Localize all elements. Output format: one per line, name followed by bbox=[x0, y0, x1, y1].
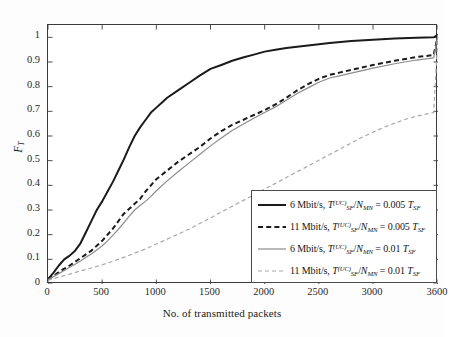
y-tick-label: 0 bbox=[0, 277, 40, 287]
x-axis-title: No. of transmitted packets bbox=[0, 307, 444, 319]
legend-eq: = 0.005 bbox=[375, 199, 405, 210]
y-tick-label: 0.9 bbox=[0, 55, 40, 65]
legend-line-sample bbox=[257, 221, 287, 233]
legend-label: 11 Mbit/s, T(UC)SF/NMN = 0.01 TSF bbox=[290, 265, 420, 277]
y-axis-title: FT bbox=[12, 127, 26, 167]
x-tick-label: 0 bbox=[25, 287, 69, 297]
y-tick-label: 1 bbox=[0, 30, 40, 40]
y-tick-label: 0.2 bbox=[0, 228, 40, 238]
legend-line-sample bbox=[257, 199, 287, 211]
x-tick-label: 2000 bbox=[242, 287, 286, 297]
x-tick-label: 3600 bbox=[415, 287, 452, 297]
legend-label: 6 Mbit/s, T(UC)SF/NMN = 0.01 TSF bbox=[290, 243, 416, 255]
x-tick-label: 1000 bbox=[133, 287, 177, 297]
legend-box: 6 Mbit/s, T(UC)SF/NMN = 0.005 TSF11 Mbit… bbox=[251, 190, 437, 283]
legend-rate: 11 Mbit/s, bbox=[290, 221, 330, 232]
y-tick-label: 0.3 bbox=[0, 203, 40, 213]
legend-eq: = 0.01 bbox=[375, 243, 400, 254]
y-tick-label: 0.4 bbox=[0, 178, 40, 188]
y-tick-label: 0.7 bbox=[0, 104, 40, 114]
y-tick-label: 0.8 bbox=[0, 80, 40, 90]
y-axis-title-sub: T bbox=[17, 141, 26, 145]
legend-rate: 11 Mbit/s, bbox=[290, 265, 330, 276]
legend-line-sample bbox=[257, 243, 287, 255]
legend-den: N bbox=[356, 243, 363, 254]
legend-item: 6 Mbit/s, T(UC)SF/NMN = 0.005 TSF bbox=[252, 194, 436, 216]
legend-label: 11 Mbit/s, T(UC)SF/NMN = 0.005 TSF bbox=[290, 221, 425, 233]
legend-eq: = 0.005 bbox=[380, 221, 410, 232]
legend-item: 11 Mbit/s, T(UC)SF/NMN = 0.005 TSF bbox=[252, 216, 436, 238]
legend-item: 11 Mbit/s, T(UC)SF/NMN = 0.01 TSF bbox=[252, 260, 436, 282]
legend-label: 6 Mbit/s, T(UC)SF/NMN = 0.005 TSF bbox=[290, 199, 420, 211]
legend-rate: 6 Mbit/s, bbox=[290, 243, 325, 254]
legend-den: N bbox=[356, 199, 363, 210]
x-tick-label: 3000 bbox=[350, 287, 394, 297]
legend-rate: 6 Mbit/s, bbox=[290, 199, 325, 210]
x-tick-label: 500 bbox=[79, 287, 123, 297]
x-tick-label: 2500 bbox=[296, 287, 340, 297]
x-tick-label: 1500 bbox=[188, 287, 232, 297]
legend-item: 6 Mbit/s, T(UC)SF/NMN = 0.01 TSF bbox=[252, 238, 436, 260]
legend-line-sample bbox=[257, 265, 287, 277]
legend-eq: = 0.01 bbox=[380, 265, 405, 276]
y-axis-title-base: F bbox=[12, 146, 24, 153]
y-tick-label: 0.1 bbox=[0, 252, 40, 262]
